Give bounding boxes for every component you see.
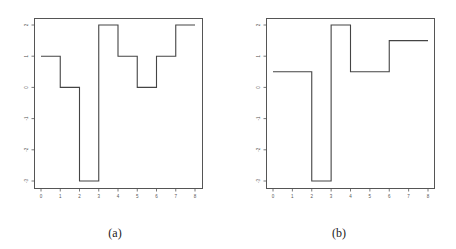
y-tick-label: 1	[24, 54, 29, 57]
x-tick-label: 6	[155, 194, 158, 199]
x-tick-label: 2	[310, 194, 313, 199]
chart-panel-a: 012345678-3-2-1012	[24, 19, 203, 200]
x-tick-label: 1	[59, 194, 62, 199]
y-tick-label: 2	[256, 23, 261, 26]
y-tick-label: -3	[256, 179, 261, 183]
y-tick-label: 2	[24, 23, 29, 26]
y-tick-label: -2	[24, 147, 29, 151]
x-tick-label: 5	[136, 194, 139, 199]
x-tick-label: 8	[427, 194, 430, 199]
x-tick-label: 5	[369, 194, 372, 199]
x-tick-label: 7	[174, 194, 177, 199]
y-tick-label: -1	[24, 116, 29, 120]
x-tick-label: 0	[272, 194, 275, 199]
y-tick-label: 0	[256, 86, 261, 89]
x-tick-label: 1	[291, 194, 294, 199]
y-tick-label: 1	[256, 54, 261, 57]
chart-panel-b: 012345678-3-2-1012	[256, 19, 435, 200]
x-tick-label: 4	[349, 194, 352, 199]
figure: 012345678-3-2-1012012345678-3-2-1012	[0, 0, 456, 249]
x-tick-label: 6	[388, 194, 391, 199]
x-tick-label: 7	[407, 194, 410, 199]
x-tick-label: 8	[194, 194, 197, 199]
y-tick-label: -1	[256, 116, 261, 120]
caption-a: (a)	[108, 226, 121, 241]
x-tick-label: 3	[97, 194, 100, 199]
caption-b: (b)	[332, 226, 346, 241]
x-tick-label: 2	[78, 194, 81, 199]
y-tick-label: -2	[256, 147, 261, 151]
x-tick-label: 3	[330, 194, 333, 199]
x-tick-label: 4	[117, 194, 120, 199]
y-tick-label: 0	[24, 86, 29, 89]
y-tick-label: -3	[24, 179, 29, 183]
x-tick-label: 0	[40, 194, 43, 199]
step-series	[273, 25, 428, 181]
step-series	[41, 25, 195, 181]
